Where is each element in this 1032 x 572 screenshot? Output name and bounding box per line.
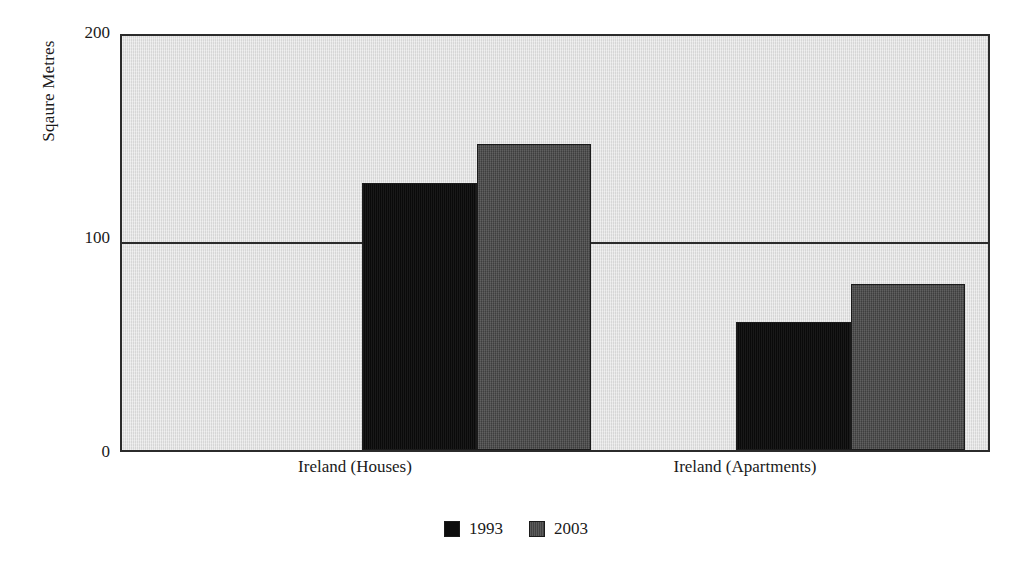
y-axis-tick-label-200: 200: [64, 24, 110, 42]
legend-item-2003: 2003: [529, 519, 588, 539]
bar-1993-ireland-houses: [362, 183, 477, 450]
legend-swatch-icon-2003: [529, 521, 545, 537]
bar-2003-ireland-apartments: [851, 284, 966, 450]
y-axis-title: Sqaure Metres: [36, 1, 62, 181]
x-axis-category-label-ireland-houses: Ireland (Houses): [235, 455, 475, 479]
x-axis-category-label-ireland-apartments: Ireland (Apartments): [610, 455, 880, 479]
bar-1993-ireland-apartments: [736, 322, 851, 450]
y-axis-tick-label-100: 100: [64, 229, 110, 247]
legend-label-2003: 2003: [554, 519, 588, 539]
bar-2003-ireland-houses: [477, 144, 592, 450]
plot-area: [120, 34, 990, 452]
bar-chart-figure: Sqaure Metres 200 100 0 Ireland (Houses)…: [0, 0, 1032, 572]
chart-legend: 1993 2003: [0, 519, 1032, 539]
legend-swatch-icon-1993: [444, 521, 460, 537]
legend-label-1993: 1993: [469, 519, 503, 539]
y-axis-tick-label-0: 0: [64, 443, 110, 461]
legend-item-1993: 1993: [444, 519, 503, 539]
